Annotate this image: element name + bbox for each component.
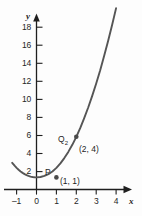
- x-axis-arrowhead: [124, 186, 133, 194]
- x-tick-label-3: 3: [89, 197, 103, 206]
- point-label-P: P: [45, 167, 51, 177]
- y-axis-label: y: [26, 11, 30, 21]
- y-tick-label-16: 16: [13, 41, 31, 50]
- y-axis-ticks: [37, 27, 43, 171]
- y-tick-label-2: 2: [13, 167, 31, 176]
- point-marker-Q2: [74, 135, 79, 140]
- y-tick-label-18: 18: [13, 23, 31, 32]
- x-axis-label: x: [129, 196, 134, 206]
- point-coord-Q2: (2, 4): [79, 144, 99, 154]
- y-tick-label-8: 8: [13, 113, 31, 122]
- chart-figure: 18 16 14 12 10 8 6 4 2 –1 0 1 2 3 4 y x …: [0, 0, 142, 216]
- point-coord-P: (1, 1): [60, 176, 80, 186]
- x-tick-label-2: 2: [69, 197, 83, 206]
- point-label-Q2: Q2: [58, 134, 68, 146]
- point-marker-P: [54, 175, 59, 180]
- y-tick-label-4: 4: [13, 149, 31, 158]
- y-tick-label-6: 6: [13, 131, 31, 140]
- x-tick-label-0: 0: [30, 197, 44, 206]
- point-label-Q2-letter: Q: [58, 134, 65, 144]
- x-axis-ticks: [17, 190, 117, 195]
- y-tick-label-10: 10: [13, 95, 31, 104]
- x-tick-label-4: 4: [109, 197, 123, 206]
- y-tick-label-14: 14: [13, 59, 31, 68]
- y-tick-label-12: 12: [13, 77, 31, 86]
- y-axis-arrowhead: [33, 14, 40, 22]
- x-tick-label-neg1: –1: [10, 197, 24, 206]
- x-tick-label-1: 1: [49, 197, 63, 206]
- point-label-Q2-subscript: 2: [65, 140, 68, 146]
